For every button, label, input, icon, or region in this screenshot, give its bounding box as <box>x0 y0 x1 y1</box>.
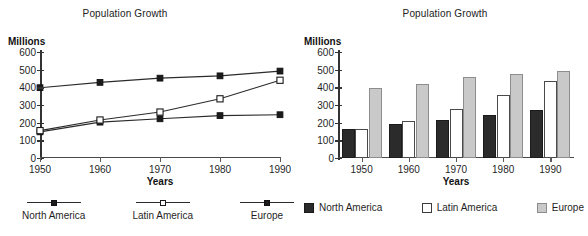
bar <box>557 71 570 158</box>
legend-swatch-icon <box>304 203 314 213</box>
x-tick-label: 1970 <box>436 164 476 175</box>
line-data-marker <box>157 75 163 81</box>
filled-square-marker-icon <box>27 198 81 207</box>
y-tick-mark <box>37 123 44 124</box>
line-data-marker <box>37 128 43 134</box>
x-tick-mark <box>220 157 221 162</box>
line-data-marker <box>217 73 223 79</box>
line-chart-x-axis-title: Years <box>40 176 280 187</box>
y-tick-mark <box>335 123 342 124</box>
bar <box>510 74 523 158</box>
legend-item-label: North America <box>319 202 382 213</box>
x-tick-label: 1950 <box>20 164 60 175</box>
y-tick-label: 0 <box>12 153 36 164</box>
bar <box>544 81 557 158</box>
bar <box>342 129 355 158</box>
y-tick-label: 600 <box>310 47 334 58</box>
y-tick-label: 500 <box>12 64 36 75</box>
legend-item[interactable]: Latin America <box>422 202 498 213</box>
y-tick-label: 200 <box>310 117 334 128</box>
x-tick-mark <box>456 157 457 162</box>
bar-chart-bars-layer <box>338 52 574 158</box>
x-tick-label: 1970 <box>140 164 180 175</box>
x-tick-mark <box>503 157 504 162</box>
line-data-marker <box>97 117 103 123</box>
y-tick-label: 300 <box>310 100 334 111</box>
filled-square-marker-icon <box>240 198 294 207</box>
line-chart-panel: Population Growth Millions 6005004003002… <box>0 0 294 236</box>
legend-item[interactable]: Europe <box>537 202 584 213</box>
x-tick-mark <box>550 157 551 162</box>
bar <box>355 129 368 158</box>
legend-item-label: Europe <box>251 210 283 221</box>
line-data-marker <box>157 116 163 122</box>
legend-item-label: North America <box>22 210 85 221</box>
line-data-marker <box>97 79 103 85</box>
y-tick-mark <box>335 140 342 141</box>
y-tick-label: 100 <box>310 135 334 146</box>
legend-item-label: Latin America <box>437 202 498 213</box>
bar <box>369 88 382 158</box>
y-tick-mark <box>37 87 44 88</box>
x-tick-mark <box>160 157 161 162</box>
bar <box>450 109 463 158</box>
line-data-marker <box>277 112 283 118</box>
legend-swatch-icon <box>422 203 432 213</box>
y-tick-label: 200 <box>12 117 36 128</box>
bar-chart-plot-area <box>338 52 574 158</box>
legend-item-label: Latin America <box>132 210 193 221</box>
line-chart-series-layer <box>40 52 280 158</box>
x-tick-mark <box>280 157 281 162</box>
x-tick-label: 1980 <box>200 164 240 175</box>
line-data-marker <box>217 113 223 119</box>
line-data-marker <box>157 109 163 115</box>
y-tick-mark <box>37 105 44 106</box>
bar <box>389 124 402 158</box>
bar-chart-panel: Population Growth Millions 6005004003002… <box>294 0 588 236</box>
bar <box>402 121 415 158</box>
y-tick-label: 400 <box>310 82 334 93</box>
open-square-marker-icon <box>136 198 190 207</box>
y-tick-label: 300 <box>12 100 36 111</box>
line-chart-title: Population Growth <box>0 8 272 19</box>
bar <box>416 84 429 158</box>
y-tick-label: 0 <box>310 153 334 164</box>
bar <box>483 115 496 158</box>
bar <box>530 110 543 158</box>
y-tick-mark <box>335 87 342 88</box>
bar <box>436 120 449 158</box>
y-tick-mark <box>335 158 342 159</box>
line-chart-plot-area <box>40 52 280 158</box>
line-series-2 <box>40 80 280 130</box>
legend-item[interactable]: Europe <box>240 198 294 221</box>
y-tick-mark <box>335 105 342 106</box>
legend-item[interactable]: North America <box>22 198 85 221</box>
charts-row: Population Growth Millions 6005004003002… <box>0 0 588 236</box>
x-tick-mark <box>100 157 101 162</box>
legend-item[interactable]: Latin America <box>132 198 193 221</box>
y-tick-label: 100 <box>12 135 36 146</box>
bar-chart-title: Population Growth <box>298 8 588 19</box>
x-tick-label: 1980 <box>483 164 523 175</box>
legend-swatch-icon <box>537 203 547 213</box>
y-tick-label: 400 <box>12 82 36 93</box>
y-tick-mark <box>37 140 44 141</box>
bar <box>497 95 510 158</box>
x-tick-label: 1960 <box>389 164 429 175</box>
x-tick-label: 1950 <box>342 164 382 175</box>
x-tick-mark <box>362 157 363 162</box>
line-data-marker <box>217 96 223 102</box>
legend-item[interactable]: North America <box>304 202 382 213</box>
legend-item-label: Europe <box>552 202 584 213</box>
y-tick-mark <box>335 52 342 53</box>
y-tick-label: 500 <box>310 64 334 75</box>
x-tick-mark <box>409 157 410 162</box>
bar-chart-x-axis-title: Years <box>338 176 574 187</box>
bar-chart-legend: North AmericaLatin AmericaEurope <box>304 202 588 213</box>
line-chart-legend: North AmericaLatin AmericaEurope <box>22 198 294 221</box>
y-tick-mark <box>335 70 342 71</box>
y-tick-mark <box>37 52 44 53</box>
x-tick-label: 1960 <box>80 164 120 175</box>
bar <box>463 77 476 158</box>
y-tick-label: 600 <box>12 47 36 58</box>
